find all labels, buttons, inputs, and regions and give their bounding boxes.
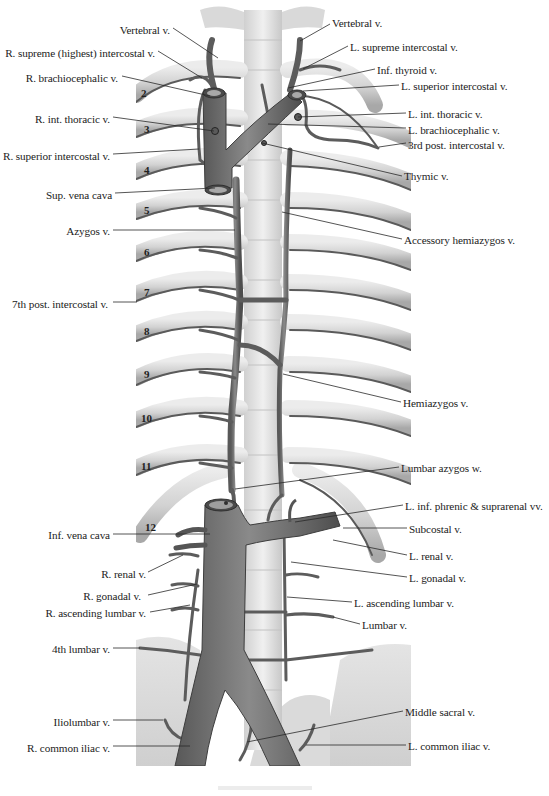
label-l-common-iliac: L. common iliac v. <box>408 740 490 752</box>
label-r-supreme-intercostal: R. supreme (highest) intercostal v. <box>5 47 155 59</box>
rib-number-10: 10 <box>141 413 152 424</box>
label-lumbar: Lumbar v. <box>362 619 407 631</box>
label-r-renal: R. renal v. <box>101 568 146 580</box>
illustration-body <box>136 6 411 766</box>
label-inf-vena-cava: Inf. vena cava <box>48 529 110 541</box>
rib-number-2: 2 <box>141 88 147 99</box>
label-iliolumbar: Iliolumbar v. <box>54 716 110 728</box>
label-r-ascending-lumbar: R. ascending lumbar v. <box>45 607 146 619</box>
rib-number-8: 8 <box>144 326 150 337</box>
rib-number-3: 3 <box>144 124 150 135</box>
label-l-inf-phrenic-suprarenal: L. inf. phrenic & suprarenal vv. <box>405 500 543 512</box>
label-l-gonadal: L. gonadal v. <box>409 572 466 584</box>
leader-l-superior-intercostal <box>303 85 399 91</box>
label-middle-sacral: Middle sacral v. <box>405 706 475 718</box>
label-l-superior-intercostal: L. superior intercostal v. <box>401 80 507 92</box>
rib-number-11: 11 <box>141 461 151 472</box>
rib-number-4: 4 <box>144 165 150 176</box>
rib-number-7: 7 <box>144 287 150 298</box>
label-r-common-iliac: R. common iliac v. <box>27 742 110 754</box>
caption-bar <box>218 786 312 790</box>
label-l-supreme-intercostal: L. supreme intercostal v. <box>350 41 458 53</box>
rib-number-5: 5 <box>144 205 150 216</box>
label-r-gonadal: R. gonadal v. <box>83 590 141 602</box>
label-r-brachiocephalic: R. brachiocephalic v. <box>26 72 118 84</box>
label-r-int-thoracic: R. int. thoracic v. <box>35 113 110 125</box>
rib-number-6: 6 <box>144 247 150 258</box>
label-lumbar-azygos: Lumbar azygos w. <box>401 462 482 474</box>
label-4th-lumbar: 4th lumbar v. <box>52 643 110 655</box>
label-accessory-hemiazygos: Accessory hemiazygos v. <box>404 234 515 246</box>
label-r-superior-intercostal: R. superior intercostal v. <box>3 150 110 162</box>
rib-number-12: 12 <box>145 522 156 533</box>
label-l-int-thoracic: L. int. thoracic v. <box>408 108 482 120</box>
rib-number-9: 9 <box>144 369 150 380</box>
label-l-renal: L. renal v. <box>409 550 453 562</box>
label-sup-vena-cava: Sup. vena cava <box>46 189 112 201</box>
leader-3rd-post-intercostal <box>379 143 406 147</box>
leader-r-renal <box>148 555 183 572</box>
label-azygos: Azygos v. <box>66 225 110 237</box>
label-l-ascending-lumbar: L. ascending lumbar v. <box>354 597 454 609</box>
label-subcostal: Subcostal v. <box>409 523 462 535</box>
label-r-vertebral: Vertebral v. <box>120 24 170 36</box>
label-l-vertebral: Vertebral v. <box>332 17 382 29</box>
label-3rd-post-intercostal: 3rd post. intercostal v. <box>408 139 505 151</box>
label-l-brachiocephalic: L. brachiocephalic v. <box>408 124 500 136</box>
leader-lumbar <box>333 617 360 624</box>
leader-l-ascending-lumbar <box>287 597 352 602</box>
label-hemiazygos: Hemiazygos v. <box>403 397 468 409</box>
label-7th-post-intercostal: 7th post. intercostal v. <box>12 298 108 310</box>
label-thymic: Thymic v. <box>404 170 448 182</box>
label-inf-thyroid: Inf. thyroid v. <box>377 64 437 76</box>
